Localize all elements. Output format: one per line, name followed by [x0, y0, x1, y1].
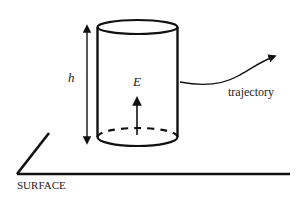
field-label: E: [132, 74, 141, 89]
height-label: h: [68, 70, 75, 85]
cylinder-top: [98, 20, 178, 34]
trajectory-label: trajectory: [228, 85, 274, 99]
surface-perspective-edge: [17, 133, 49, 174]
surface-label: SURFACE: [17, 179, 66, 191]
cylinder-bottom-front: [98, 137, 178, 146]
surface: [17, 133, 290, 174]
diagram-canvas: h E trajectory SURFACE: [0, 0, 303, 197]
trajectory-arrow: [180, 56, 275, 84]
